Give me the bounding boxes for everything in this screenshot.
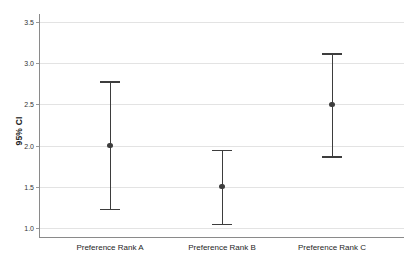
y-axis-tick-mark (36, 187, 39, 188)
error-bar-lower-cap (212, 224, 232, 225)
x-axis-spine (39, 237, 404, 238)
y-axis-tick-label: 1.5 (24, 183, 34, 190)
y-axis-tick-mark (36, 22, 39, 23)
mean-marker (329, 102, 334, 107)
error-bar-chart: 95% CI 3.53.02.52.01.51.0 Preference Ran… (0, 0, 416, 261)
y-axis-tick-label: 2.0 (24, 142, 34, 149)
gridline (40, 63, 404, 64)
y-axis-tick-mark (36, 228, 39, 229)
y-axis-tick-mark (36, 63, 39, 64)
y-axis-title: 95% CI (8, 0, 30, 261)
y-axis-tick-mark (36, 146, 39, 147)
error-bar-upper-cap (100, 81, 120, 82)
error-bar-lower-cap (100, 209, 120, 210)
error-bar-upper-cap (322, 53, 342, 54)
gridline (40, 146, 404, 147)
x-axis-category-label: Preference Rank B (188, 243, 256, 252)
gridline (40, 228, 404, 229)
y-axis-tick-label: 3.0 (24, 60, 34, 67)
y-axis-spine (39, 14, 40, 238)
error-bar-upper-cap (212, 150, 232, 151)
error-bar-lower-cap (322, 156, 342, 157)
x-axis-category-label: Preference Rank A (76, 243, 143, 252)
gridline (40, 104, 404, 105)
gridline (40, 22, 404, 23)
plot-area: 3.53.02.52.01.51.0 (39, 14, 404, 238)
mean-marker (219, 184, 224, 189)
y-axis-tick-mark (36, 104, 39, 105)
y-axis-tick-label: 3.5 (24, 19, 34, 26)
y-axis-tick-label: 2.5 (24, 101, 34, 108)
x-axis-category-label: Preference Rank C (298, 243, 366, 252)
y-axis-title-label: 95% CI (14, 116, 24, 145)
mean-marker (107, 143, 112, 148)
y-axis-tick-label: 1.0 (24, 225, 34, 232)
